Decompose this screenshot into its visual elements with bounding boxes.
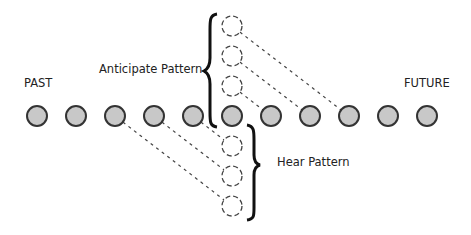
timeline-circle bbox=[66, 106, 86, 126]
timeline-circle bbox=[222, 106, 242, 126]
anticipate-brace bbox=[204, 14, 217, 127]
hear-pattern-label: Hear Pattern bbox=[277, 157, 350, 169]
timeline-circle bbox=[105, 106, 125, 126]
pattern-dashed-circle bbox=[222, 16, 242, 36]
pattern-dashed-circle bbox=[222, 76, 242, 96]
pattern-dashed-circle bbox=[222, 136, 242, 156]
pattern-dashed-circle bbox=[222, 196, 242, 216]
dashed-link-line bbox=[240, 92, 263, 110]
timeline-circles bbox=[27, 106, 437, 126]
pattern-dashed-circle bbox=[222, 46, 242, 66]
timeline-circle bbox=[183, 106, 203, 126]
future-label: FUTURE bbox=[404, 78, 450, 90]
pattern-diagram bbox=[0, 0, 471, 235]
hear-brace bbox=[247, 125, 260, 220]
pattern-dashed-circle bbox=[222, 166, 242, 186]
dashed-link-line bbox=[123, 122, 224, 200]
past-label: PAST bbox=[24, 78, 52, 90]
timeline-circle bbox=[378, 106, 398, 126]
timeline-circle bbox=[300, 106, 320, 126]
timeline-circle bbox=[417, 106, 437, 126]
timeline-circle bbox=[144, 106, 164, 126]
timeline-circle bbox=[261, 106, 281, 126]
timeline-circle bbox=[27, 106, 47, 126]
timeline-circle bbox=[339, 106, 359, 126]
dashed-link-line bbox=[240, 62, 302, 110]
dashed-link-line bbox=[240, 32, 341, 110]
dashed-link-line bbox=[162, 122, 224, 170]
anticipate-pattern-label: Anticipate Pattern bbox=[99, 64, 202, 76]
